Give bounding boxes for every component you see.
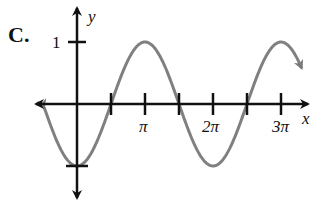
x-tick-label-3pi: 3π [271,117,290,136]
sine-graph: 1 y x π 2π 3π [0,0,329,209]
y-axis-label: y [86,7,96,26]
x-tick-label-2pi: 2π [202,117,220,136]
y-tick-label-1: 1 [52,33,61,52]
x-axis-label: x [301,109,310,128]
x-tick-label-pi: π [139,117,148,136]
